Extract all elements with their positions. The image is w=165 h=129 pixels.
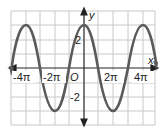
x-axis-label: x [147,54,154,66]
x-tick-label-4pi: 4π [134,71,148,83]
x-tick-label-2pi: 2π [104,71,118,83]
graph: -4π -2π O 2π 4π 2 -2 y x [0,0,165,129]
y-axis-up-arrow-icon [81,8,87,15]
y-tick-label-2: 2 [75,34,81,46]
x-tick-label-neg2pi: -2π [43,71,61,83]
origin-label: O [70,71,79,83]
y-tick-label-neg2: -2 [70,91,80,103]
x-tick-label-neg4pi: -4π [13,71,31,83]
